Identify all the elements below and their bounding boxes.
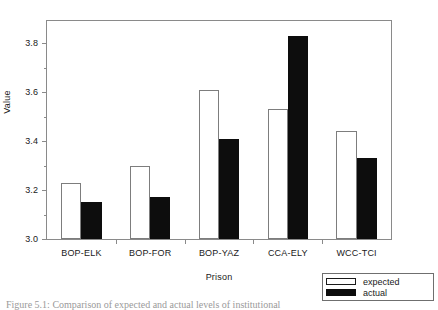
plot-area: 3.03.23.43.63.8 BOP-ELKBOP-FORBOP-YAZCCA… [46,20,392,240]
bar-wcc-tci-expected [336,131,356,239]
hollow-bar-swatch [326,278,356,285]
y-tick-label: 3.6 [25,87,38,97]
legend: expectedactual [322,273,434,301]
filled-bar-swatch [326,289,356,296]
y-tick-label: 3.0 [25,234,38,244]
x-category-label: CCA-ELY [268,248,308,258]
legend-label: actual [363,288,387,298]
x-category-label: WCC-TCI [336,248,376,258]
y-tick-label: 3.8 [25,38,38,48]
bars-layer [47,21,391,239]
bar-bop-elk-actual [81,202,101,239]
x-category-label: BOP-YAZ [199,248,239,258]
y-tick-label: 3.2 [25,185,38,195]
bar-bop-yaz-expected [199,90,219,239]
bar-wcc-tci-actual [357,158,377,239]
x-tick [253,239,254,244]
y-axis-title: Value [2,72,12,132]
x-tick [185,239,186,244]
x-category-label: BOP-ELK [61,248,101,258]
x-tick [116,239,117,244]
bar-bop-for-expected [130,166,150,239]
x-tick [322,239,323,244]
bar-cca-ely-actual [288,36,308,239]
bar-cca-ely-expected [268,109,288,239]
x-category-label: BOP-FOR [129,248,171,258]
legend-row: expected [326,276,430,287]
y-tick-major: 3.0 [42,239,47,240]
bar-bop-yaz-actual [219,139,239,239]
bar-bop-elk-expected [61,183,81,239]
figure-caption: Figure 5.1: Comparison of expected and a… [6,299,436,310]
legend-row: actual [326,287,430,298]
bar-bop-for-actual [150,197,170,239]
y-tick-label: 3.4 [25,136,38,146]
legend-label: expected [363,277,400,287]
